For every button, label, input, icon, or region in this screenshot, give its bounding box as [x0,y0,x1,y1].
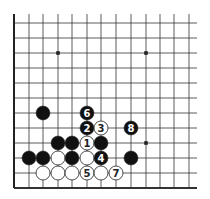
stone-circle [94,136,108,150]
black-stone [22,151,36,165]
black-stone [36,106,50,120]
black-stone: 8 [124,121,138,135]
move-number: 5 [84,168,91,179]
white-stone [65,166,79,180]
move-number: 6 [84,108,91,119]
stone-circle [65,136,79,150]
black-stone [124,151,138,165]
move-number: 7 [113,168,120,179]
move-number: 3 [98,123,105,134]
black-stone [51,136,65,150]
stone-circle [36,106,50,120]
stone-circle [51,151,65,165]
white-stone: 7 [109,166,123,180]
go-board-diagram: 62381457 [0,0,210,199]
move-number: 4 [98,153,105,164]
star-point-icon [144,141,148,145]
move-number: 8 [128,123,135,134]
stone-circle [65,166,79,180]
stone-circle [94,166,108,180]
white-stone: 3 [94,121,108,135]
white-stone: 1 [80,136,94,150]
move-number: 1 [84,138,91,149]
black-stone: 4 [94,151,108,165]
black-stone [65,136,79,150]
white-stone [51,166,65,180]
stone-circle [22,151,36,165]
black-stone: 2 [80,121,94,135]
stone-circle [124,151,138,165]
black-stone [65,151,79,165]
stone-circle [65,151,79,165]
stone-circle [51,136,65,150]
white-stone [51,151,65,165]
white-stone: 5 [80,166,94,180]
star-point-icon [144,51,148,55]
stone-circle [51,166,65,180]
black-stone: 6 [80,106,94,120]
black-stone [36,151,50,165]
stone-circle [80,151,94,165]
white-stone [94,166,108,180]
black-stone [94,136,108,150]
white-stone [36,166,50,180]
stone-circle [36,166,50,180]
go-board: 62381457 [0,0,210,199]
star-point-icon [56,51,60,55]
move-number: 2 [84,123,91,134]
white-stone [80,151,94,165]
stone-circle [36,151,50,165]
